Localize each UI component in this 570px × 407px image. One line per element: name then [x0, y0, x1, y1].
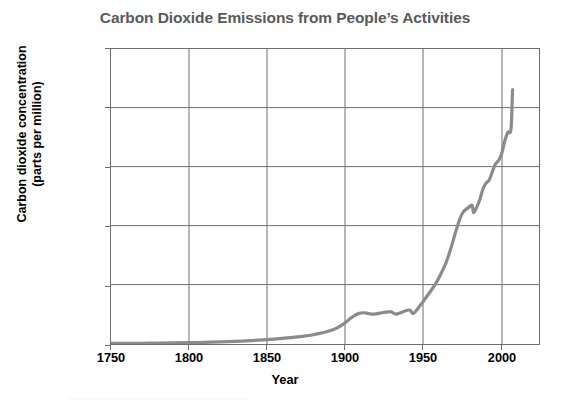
chart-title: Carbon Dioxide Emissions from People’s A…	[0, 9, 570, 27]
x-tick-label-1950: 1950	[393, 350, 453, 365]
horizontal-gridlines	[111, 108, 539, 285]
x-tick-label-2000: 2000	[472, 350, 532, 365]
y-axis-title: Carbon dioxide concentration (parts per …	[15, 0, 55, 268]
y-axis-title-line2: (parts per million)	[30, 0, 45, 268]
data-series-line-co2	[111, 90, 513, 344]
x-tick-label-1750: 1750	[81, 350, 141, 365]
x-axis-title: Year	[0, 372, 570, 387]
plot-area	[110, 48, 540, 345]
vertical-gridlines	[189, 49, 502, 344]
x-tick-label-1850: 1850	[237, 350, 297, 365]
x-tick-label-1900: 1900	[315, 350, 375, 365]
footer-artifact	[68, 398, 248, 400]
y-axis-title-line1: Carbon dioxide concentration	[15, 0, 30, 268]
x-tick-label-1800: 1800	[159, 350, 219, 365]
plot-svg	[111, 49, 539, 344]
chart-figure: Carbon Dioxide Emissions from People’s A…	[0, 0, 570, 407]
